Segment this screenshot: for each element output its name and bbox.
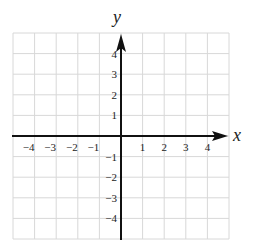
x-tick-label: −2 xyxy=(66,141,78,153)
x-axis-label: x xyxy=(232,125,241,145)
y-tick-label: 4 xyxy=(112,48,118,60)
x-tick-label: 3 xyxy=(183,141,189,153)
x-tick-label: −4 xyxy=(23,141,35,153)
y-tick-label: −2 xyxy=(105,171,117,183)
y-tick-label: −1 xyxy=(105,151,117,163)
y-tick-label: 1 xyxy=(112,109,118,121)
x-tick-label: 1 xyxy=(140,141,146,153)
y-tick-label: −3 xyxy=(105,192,117,204)
y-tick-label: −4 xyxy=(105,212,117,224)
coordinate-plane: x y −4−3−2−11234 4321−1−2−3−4 xyxy=(0,0,261,245)
y-tick-label: 2 xyxy=(112,89,118,101)
x-tick-label: −1 xyxy=(88,141,100,153)
x-tick-label: 2 xyxy=(161,141,167,153)
y-tick-label: 3 xyxy=(112,68,118,80)
x-tick-label: −3 xyxy=(44,141,56,153)
x-tick-label: 4 xyxy=(205,141,211,153)
y-axis-label: y xyxy=(111,7,121,27)
